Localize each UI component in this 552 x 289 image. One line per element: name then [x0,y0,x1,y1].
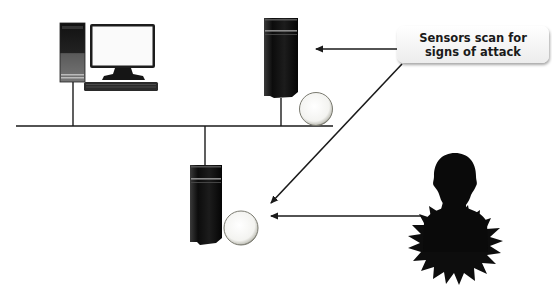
desktop-computer-icon [60,23,158,91]
server-top [264,18,333,126]
server-bottom [190,165,258,245]
attacker [408,153,503,285]
sensor-lens-icon [300,93,333,126]
monitor-stand [102,68,145,80]
server-tower-icon [190,165,222,245]
sensors-callout: Sensors scan for signs of attack [397,26,549,63]
pc-tower [60,23,85,82]
server-tower-icon [264,18,298,98]
sensor-lens-icon [224,211,258,245]
monitor-screen [93,27,153,66]
person-silhouette-icon [423,153,488,252]
keyboard [84,82,158,91]
callout-line-2: signs of attack [425,45,521,59]
callout-line-1: Sensors scan for [419,31,527,45]
